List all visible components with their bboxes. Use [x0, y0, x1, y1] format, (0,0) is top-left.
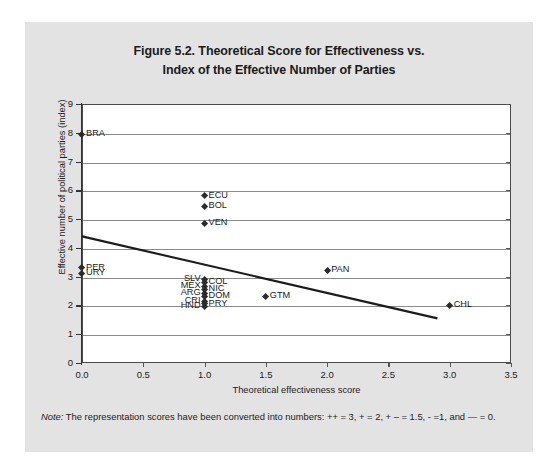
trend-line: [25, 22, 533, 402]
data-point-label: GTM: [270, 290, 290, 300]
figure-note-text: The representation scores have been conv…: [63, 411, 495, 422]
data-point-label: VEN: [209, 217, 228, 227]
data-point-label: BRA: [86, 128, 105, 138]
data-point-label: PAN: [331, 264, 349, 274]
figure-note-label: Note:: [41, 411, 63, 422]
figure-note: Note: The representation scores have bee…: [41, 410, 525, 423]
figure-panel: Figure 5.2. Theoretical Score for Effect…: [25, 22, 533, 452]
data-point-label: HND: [181, 300, 201, 310]
data-point-label: BOL: [209, 200, 227, 210]
data-point-label: URY: [86, 267, 105, 277]
data-point-label: PRY: [209, 298, 228, 308]
data-point-label: CHL: [454, 299, 472, 309]
data-point-label: ECU: [209, 190, 228, 200]
